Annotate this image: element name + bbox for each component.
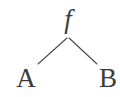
tree-diagram: f A B <box>0 0 120 97</box>
tree-node-right-leaf: B <box>94 65 120 92</box>
tree-node-root: f <box>56 6 80 33</box>
edge-root-to-b <box>69 38 97 64</box>
tree-node-left-leaf: A <box>12 65 40 92</box>
edge-root-to-a <box>38 38 67 64</box>
